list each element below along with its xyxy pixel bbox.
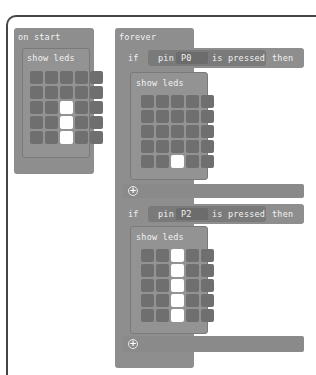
- led-off[interactable]: [141, 95, 154, 108]
- led-off[interactable]: [156, 279, 169, 292]
- led-off[interactable]: [201, 294, 214, 307]
- led-off[interactable]: [201, 279, 214, 292]
- plus-circle-icon[interactable]: +: [128, 186, 138, 196]
- led-on[interactable]: [171, 279, 184, 292]
- pin-pressed-condition[interactable]: pin P2 is pressed: [148, 206, 266, 222]
- led-off[interactable]: [186, 125, 199, 138]
- led-off[interactable]: [60, 86, 73, 99]
- on-start-label: on start: [18, 32, 61, 42]
- led-off[interactable]: [186, 110, 199, 123]
- led-off[interactable]: [156, 294, 169, 307]
- led-off[interactable]: [186, 294, 199, 307]
- led-off[interactable]: [186, 279, 199, 292]
- led-off[interactable]: [141, 110, 154, 123]
- is-pressed-label: is pressed: [212, 209, 265, 219]
- led-off[interactable]: [75, 86, 88, 99]
- led-off[interactable]: [171, 125, 184, 138]
- show-leds-block[interactable]: show leds: [22, 48, 90, 158]
- pin-dropdown[interactable]: P0: [176, 52, 208, 64]
- then-label: then: [272, 209, 293, 219]
- led-off[interactable]: [201, 95, 214, 108]
- led-off[interactable]: [75, 116, 88, 129]
- led-on[interactable]: [171, 309, 184, 322]
- led-off[interactable]: [90, 86, 103, 99]
- led-off[interactable]: [186, 140, 199, 153]
- led-on[interactable]: [60, 131, 73, 144]
- led-off[interactable]: [186, 264, 199, 277]
- led-off[interactable]: [75, 71, 88, 84]
- led-off[interactable]: [186, 249, 199, 262]
- pin-value: P0: [181, 53, 192, 63]
- led-off[interactable]: [75, 131, 88, 144]
- if-footer-p2: [122, 336, 304, 352]
- led-off[interactable]: [201, 309, 214, 322]
- led-off[interactable]: [141, 249, 154, 262]
- led-on[interactable]: [60, 101, 73, 114]
- led-off[interactable]: [90, 131, 103, 144]
- if-footer-p0: [122, 184, 304, 198]
- led-off[interactable]: [201, 110, 214, 123]
- led-grid[interactable]: [141, 249, 214, 322]
- led-off[interactable]: [141, 140, 154, 153]
- led-off[interactable]: [30, 71, 43, 84]
- show-leds-block[interactable]: show leds: [130, 226, 208, 334]
- led-off[interactable]: [201, 264, 214, 277]
- led-off[interactable]: [60, 71, 73, 84]
- led-off[interactable]: [171, 95, 184, 108]
- led-off[interactable]: [141, 264, 154, 277]
- led-off[interactable]: [156, 264, 169, 277]
- on-start-block[interactable]: on start show leds: [14, 28, 94, 174]
- led-off[interactable]: [141, 125, 154, 138]
- led-off[interactable]: [141, 309, 154, 322]
- led-off[interactable]: [45, 116, 58, 129]
- led-off[interactable]: [186, 309, 199, 322]
- led-off[interactable]: [30, 116, 43, 129]
- led-off[interactable]: [156, 95, 169, 108]
- led-off[interactable]: [201, 125, 214, 138]
- led-off[interactable]: [186, 155, 199, 168]
- led-off[interactable]: [156, 125, 169, 138]
- if-block-p0[interactable]: if pin P0 is pressed then: [122, 48, 304, 68]
- led-off[interactable]: [141, 279, 154, 292]
- led-off[interactable]: [45, 131, 58, 144]
- pin-pressed-condition[interactable]: pin P0 is pressed: [148, 50, 266, 66]
- led-off[interactable]: [156, 110, 169, 123]
- led-off[interactable]: [201, 249, 214, 262]
- led-grid[interactable]: [30, 71, 103, 144]
- led-off[interactable]: [186, 95, 199, 108]
- show-leds-block[interactable]: show leds: [130, 72, 208, 180]
- led-off[interactable]: [156, 155, 169, 168]
- show-leds-label: show leds: [136, 78, 184, 88]
- led-on[interactable]: [171, 294, 184, 307]
- led-off[interactable]: [30, 86, 43, 99]
- show-leds-label: show leds: [136, 232, 184, 242]
- led-off[interactable]: [201, 140, 214, 153]
- led-on[interactable]: [171, 155, 184, 168]
- led-grid[interactable]: [141, 95, 214, 168]
- led-off[interactable]: [90, 71, 103, 84]
- led-off[interactable]: [156, 309, 169, 322]
- led-on[interactable]: [60, 116, 73, 129]
- is-pressed-label: is pressed: [212, 53, 265, 63]
- led-off[interactable]: [45, 86, 58, 99]
- led-on[interactable]: [171, 249, 184, 262]
- led-off[interactable]: [171, 110, 184, 123]
- led-off[interactable]: [90, 116, 103, 129]
- led-off[interactable]: [141, 155, 154, 168]
- plus-circle-icon[interactable]: +: [128, 339, 138, 349]
- led-off[interactable]: [30, 131, 43, 144]
- if-block-p2[interactable]: if pin P2 is pressed then: [122, 204, 304, 224]
- led-off[interactable]: [45, 101, 58, 114]
- led-off[interactable]: [30, 101, 43, 114]
- led-on[interactable]: [171, 264, 184, 277]
- led-off[interactable]: [90, 101, 103, 114]
- led-off[interactable]: [201, 155, 214, 168]
- led-off[interactable]: [171, 140, 184, 153]
- led-off[interactable]: [156, 140, 169, 153]
- led-off[interactable]: [141, 294, 154, 307]
- led-off[interactable]: [45, 71, 58, 84]
- led-off[interactable]: [75, 101, 88, 114]
- if-label: if: [128, 209, 139, 219]
- pin-dropdown[interactable]: P2: [176, 208, 208, 220]
- led-off[interactable]: [156, 249, 169, 262]
